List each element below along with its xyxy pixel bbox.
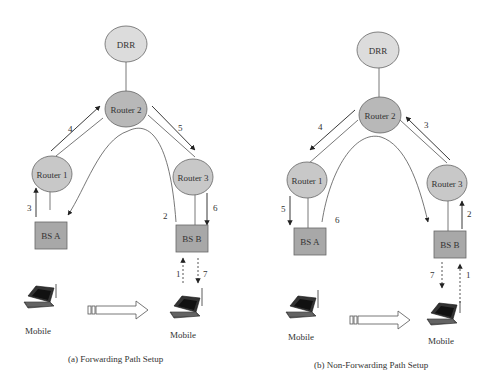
mobile-label-left: Mobile [288, 332, 314, 342]
step-label-2: 2 [467, 209, 472, 219]
router1-label: Router 1 [291, 176, 322, 186]
step-label-1: 1 [466, 270, 471, 280]
diagram-canvas: DRR Router 2 Router 1 Router 3 BS A BS B… [0, 0, 499, 374]
step-label-2: 2 [163, 211, 168, 221]
step-label-3: 3 [424, 120, 429, 130]
router2-label: Router 2 [364, 111, 395, 121]
arrow-step-2-path [68, 128, 176, 222]
router1-label: Router 1 [36, 170, 67, 180]
mobile-label-left: Mobile [25, 326, 51, 336]
bs-a-label: BS A [41, 231, 61, 241]
step-label-5: 5 [281, 204, 286, 214]
drr-label: DRR [117, 40, 136, 50]
mobile-label-right: Mobile [170, 330, 196, 340]
router3-label: Router 3 [431, 179, 463, 189]
arrow-arc-path [322, 136, 428, 222]
link-router1-router2 [56, 118, 103, 156]
step-label-7: 7 [203, 269, 208, 279]
mobile-label-right: Mobile [428, 336, 454, 346]
link-router2-router3 [148, 115, 195, 157]
arrow-step-4 [310, 110, 355, 150]
router2-label: Router 2 [110, 105, 141, 115]
panel-a: DRR Router 2 Router 1 Router 3 BS A BS B… [24, 26, 218, 364]
laptop-icon [427, 301, 460, 325]
step-label-6: 6 [335, 215, 340, 225]
step-label-5: 5 [178, 123, 183, 133]
step-label-4: 4 [68, 124, 73, 134]
step-label-3: 3 [27, 203, 32, 213]
movement-arrow-icon [350, 311, 410, 329]
bs-b-label: BS B [440, 240, 459, 250]
step-label-1: 1 [176, 269, 181, 279]
laptop-icon [24, 284, 56, 308]
bs-b-label: BS B [182, 234, 201, 244]
bs-a-label: BS A [300, 237, 320, 247]
step-label-4: 4 [318, 122, 323, 132]
panel-b: DRR Router 2 Router 1 Router 3 BS A BS B… [281, 32, 472, 370]
arrow-step-4 [51, 106, 100, 151]
step-label-7: 7 [430, 270, 435, 280]
caption-b: (b) Non-Forwarding Path Setup [314, 360, 429, 370]
laptop-icon [286, 290, 318, 318]
laptop-icon [170, 288, 202, 318]
arrow-step-5 [152, 106, 195, 150]
drr-label: DRR [369, 46, 388, 56]
caption-a: (a) Forwarding Path Setup [68, 354, 164, 364]
router3-label: Router 3 [177, 173, 209, 183]
movement-arrow-icon [88, 301, 148, 319]
link-router1-router2 [308, 120, 358, 164]
step-label-6: 6 [213, 203, 218, 213]
